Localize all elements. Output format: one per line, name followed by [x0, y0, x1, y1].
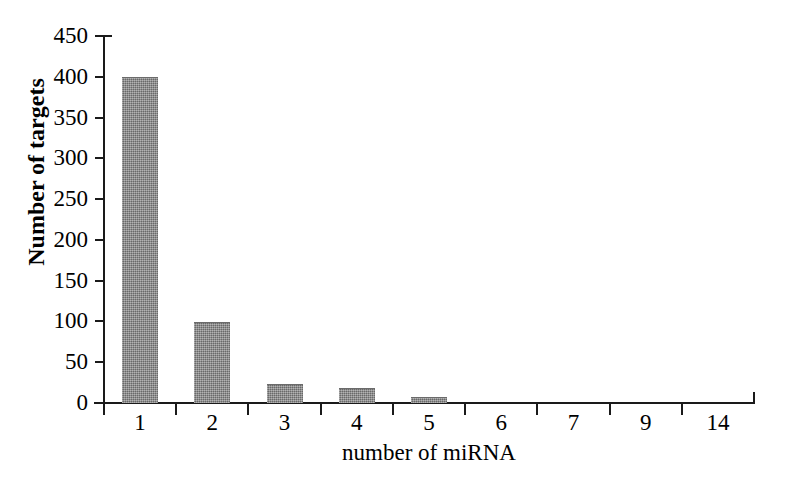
x-axis-tick-label: 4: [321, 411, 393, 434]
x-axis-title: number of miRNA: [104, 441, 754, 464]
y-axis-tick-label: 0: [20, 391, 88, 414]
plot-area: [104, 36, 754, 403]
x-axis-tick-label: 1: [104, 411, 176, 434]
y-axis-tick-label: 50: [20, 350, 88, 373]
bar: [267, 384, 303, 403]
y-axis-title: Number of targets: [24, 42, 48, 302]
x-axis-tick-label: 14: [682, 411, 754, 434]
y-axis-tick: [95, 280, 104, 282]
y-axis-tick: [95, 239, 104, 241]
bar: [411, 397, 447, 403]
bar-chart-figure: 450400350300250200150100500 1234567914 N…: [0, 0, 788, 481]
y-axis-tick: [95, 35, 104, 37]
y-axis-tick: [95, 361, 104, 363]
y-axis-tick: [95, 76, 104, 78]
x-axis-tick-label: 9: [610, 411, 682, 434]
x-axis-tick-label: 6: [465, 411, 537, 434]
x-axis-tick-label: 5: [393, 411, 465, 434]
y-axis-tick: [95, 157, 104, 159]
y-axis-tick-label: 100: [20, 309, 88, 332]
bar: [339, 388, 375, 403]
y-axis-tick: [95, 320, 104, 322]
y-axis-tick: [95, 198, 104, 200]
bar: [122, 77, 158, 403]
x-axis-tick-label: 7: [537, 411, 609, 434]
bar: [194, 322, 230, 403]
y-axis-tick: [95, 117, 104, 119]
x-axis-tick-label: 2: [176, 411, 248, 434]
x-axis-tick-label: 3: [248, 411, 320, 434]
